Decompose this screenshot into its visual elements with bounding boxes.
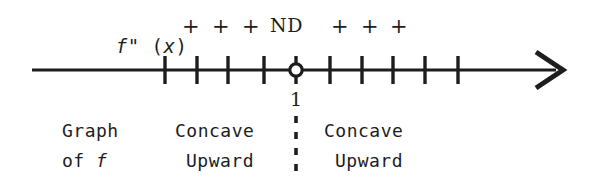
critical-point-value-label: 1 bbox=[290, 90, 302, 109]
graph-of-f-label-variable: f bbox=[96, 150, 107, 171]
left-interval-concavity-line1: Concave bbox=[175, 122, 254, 140]
sign-plus-right-2: + bbox=[361, 16, 379, 37]
concavity-sign-chart-figure: f" (x) + + + ND + + + 1 Graph of f C bbox=[0, 0, 596, 180]
second-derivative-label-paren-close: ) bbox=[176, 35, 188, 57]
graph-of-f-label-line2: of f bbox=[62, 152, 107, 170]
graph-of-f-label-line1: Graph bbox=[62, 122, 119, 140]
axis-arrowhead-right bbox=[536, 52, 563, 88]
graph-of-f-label-of: of bbox=[62, 150, 96, 171]
right-interval-concavity-line2: Upward bbox=[335, 152, 403, 170]
sign-plus-right-1: + bbox=[331, 16, 349, 37]
not-defined-marker: ND bbox=[270, 16, 303, 35]
open-circle-marker bbox=[290, 64, 302, 76]
second-derivative-label-primes: " bbox=[128, 35, 152, 57]
right-interval-concavity-line1: Concave bbox=[324, 122, 403, 140]
left-interval-concavity-line2: Upward bbox=[186, 152, 254, 170]
second-derivative-label-paren-open: ( bbox=[152, 35, 164, 57]
sign-plus-left-2: + bbox=[212, 16, 230, 37]
sign-plus-left-3: + bbox=[242, 16, 260, 37]
second-derivative-label: f" (x) bbox=[68, 18, 187, 75]
second-derivative-label-variable: x bbox=[164, 35, 176, 57]
sign-plus-right-3: + bbox=[390, 16, 408, 37]
second-derivative-label-f: f bbox=[116, 35, 128, 57]
sign-plus-left-1: + bbox=[182, 16, 200, 37]
